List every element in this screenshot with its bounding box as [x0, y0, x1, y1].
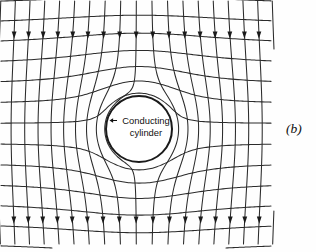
cylinder-label-line1: Conducting	[122, 115, 169, 126]
figure-container: Conducting cylinder (b)	[0, 0, 316, 252]
panel-label: (b)	[286, 121, 302, 136]
cylinder-label-line2: cylinder	[130, 127, 162, 138]
field-map-diagram: Conducting cylinder (b)	[0, 0, 316, 252]
